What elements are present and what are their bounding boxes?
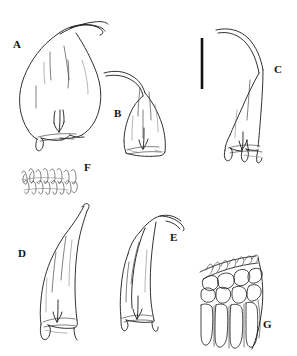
panel-a-drawing bbox=[20, 22, 108, 151]
panel-label-d: D bbox=[18, 248, 26, 259]
panel-c-drawing bbox=[216, 29, 263, 163]
panel-label-g: G bbox=[263, 319, 272, 330]
panel-label-a: A bbox=[13, 39, 21, 50]
panel-label-c: C bbox=[274, 64, 282, 75]
panel-f-drawing bbox=[22, 169, 77, 195]
panel-label-f: F bbox=[84, 162, 91, 173]
plate-drawing-canvas bbox=[0, 0, 297, 356]
panel-label-e: E bbox=[170, 232, 178, 243]
panel-d-drawing bbox=[40, 204, 89, 340]
illustration-plate: A B C D E F G bbox=[0, 0, 297, 356]
panel-g-drawing bbox=[200, 255, 263, 349]
panel-label-b: B bbox=[114, 108, 122, 119]
